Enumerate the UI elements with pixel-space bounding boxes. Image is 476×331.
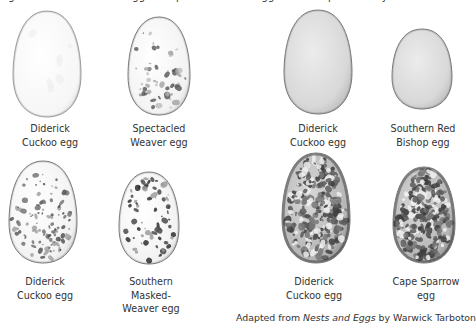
label-cape-sparrow: Cape Sparrow egg	[393, 275, 460, 302]
label-line: Masked-	[122, 289, 179, 303]
label-line: Bishop egg	[391, 136, 456, 150]
egg-marking	[42, 174, 44, 176]
label-line: Spectacled	[130, 122, 187, 136]
label-line: Diderick	[286, 275, 342, 289]
egg-marking	[294, 199, 300, 204]
egg-marking	[155, 180, 158, 182]
caption-prefix: Adapted from	[236, 312, 303, 323]
egg-diderick-plain	[13, 11, 81, 117]
egg-diderick-mottled	[282, 153, 351, 263]
label-line: Southern	[122, 275, 179, 289]
egg-southern-masked-weaver	[119, 172, 179, 265]
label-line: Cuckoo egg	[17, 289, 73, 303]
label-line: Cuckoo egg	[286, 289, 342, 303]
label-line: Diderick	[290, 122, 346, 136]
label-diderick-pale: Diderick Cuckoo egg	[290, 122, 346, 149]
label-line: Diderick	[22, 122, 78, 136]
label-diderick-mottled: Diderick Cuckoo egg	[286, 275, 342, 302]
source-caption: Adapted from Nests and Eggs by Warwick T…	[236, 312, 476, 323]
label-line: Southern Red	[391, 122, 456, 136]
egg-spectacled-weaver	[128, 17, 190, 115]
label-line: Weaver egg	[130, 136, 187, 150]
caption-book-title: Nests and Eggs	[303, 312, 376, 323]
egg-marking	[324, 207, 330, 214]
egg-marking	[434, 202, 437, 205]
egg-marking	[304, 162, 311, 169]
label-line: egg	[393, 289, 460, 303]
egg-diderick-pale	[284, 10, 352, 114]
egg-diderick-speckled	[9, 161, 77, 263]
egg-cape-sparrow	[391, 166, 455, 263]
label-diderick-speckled: Diderick Cuckoo egg	[17, 275, 73, 302]
label-line: Cape Sparrow	[393, 275, 460, 289]
label-southern-masked-weaver: Southern Masked- Weaver egg	[122, 275, 179, 316]
label-line: Weaver egg	[122, 302, 179, 316]
caption-suffix: by Warwick Tarboton	[376, 312, 476, 323]
label-line: Diderick	[17, 275, 73, 289]
label-line: Cuckoo egg	[290, 136, 346, 150]
label-line: Cuckoo egg	[22, 136, 78, 150]
label-spectacled-weaver: Spectacled Weaver egg	[130, 122, 187, 149]
label-southern-red-bishop: Southern Red Bishop egg	[391, 122, 456, 149]
egg-southern-red-bishop	[392, 29, 452, 109]
label-diderick-plain: Diderick Cuckoo egg	[22, 122, 78, 149]
